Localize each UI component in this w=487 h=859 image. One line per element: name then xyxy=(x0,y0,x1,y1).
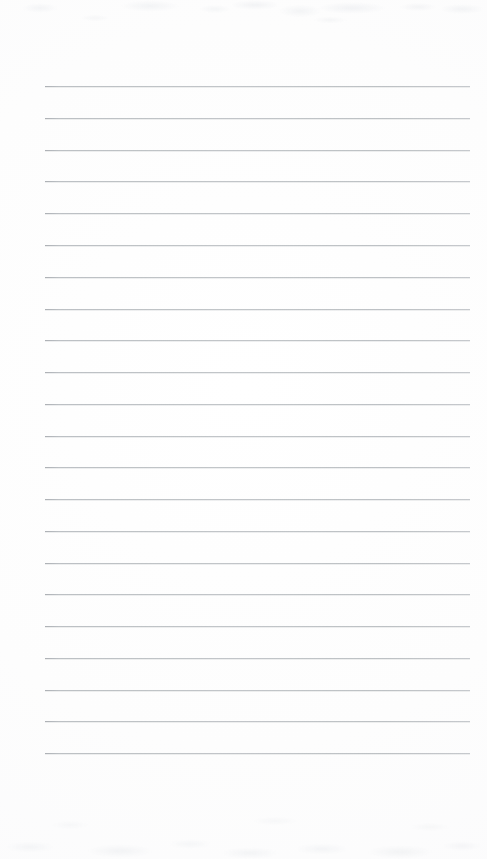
scanned-page xyxy=(0,0,487,859)
ruled-line xyxy=(45,277,470,278)
ruled-line xyxy=(45,690,470,691)
ruled-line xyxy=(45,531,470,532)
ruled-line xyxy=(45,467,470,468)
ruled-line xyxy=(45,594,470,595)
ruled-line xyxy=(45,436,470,437)
ruled-line xyxy=(45,658,470,659)
ruled-line-area xyxy=(0,0,487,859)
ruled-line xyxy=(45,372,470,373)
ruled-line xyxy=(45,753,470,754)
ruled-line xyxy=(45,499,470,500)
ruled-line xyxy=(45,626,470,627)
ruled-line xyxy=(45,404,470,405)
ruled-line xyxy=(45,181,470,182)
ruled-line xyxy=(45,86,470,87)
ruled-line xyxy=(45,721,470,722)
ruled-line xyxy=(45,150,470,151)
ruled-line xyxy=(45,309,470,310)
ruled-line xyxy=(45,563,470,564)
ruled-line xyxy=(45,213,470,214)
ruled-line xyxy=(45,118,470,119)
ruled-line xyxy=(45,340,470,341)
ruled-line xyxy=(45,245,470,246)
